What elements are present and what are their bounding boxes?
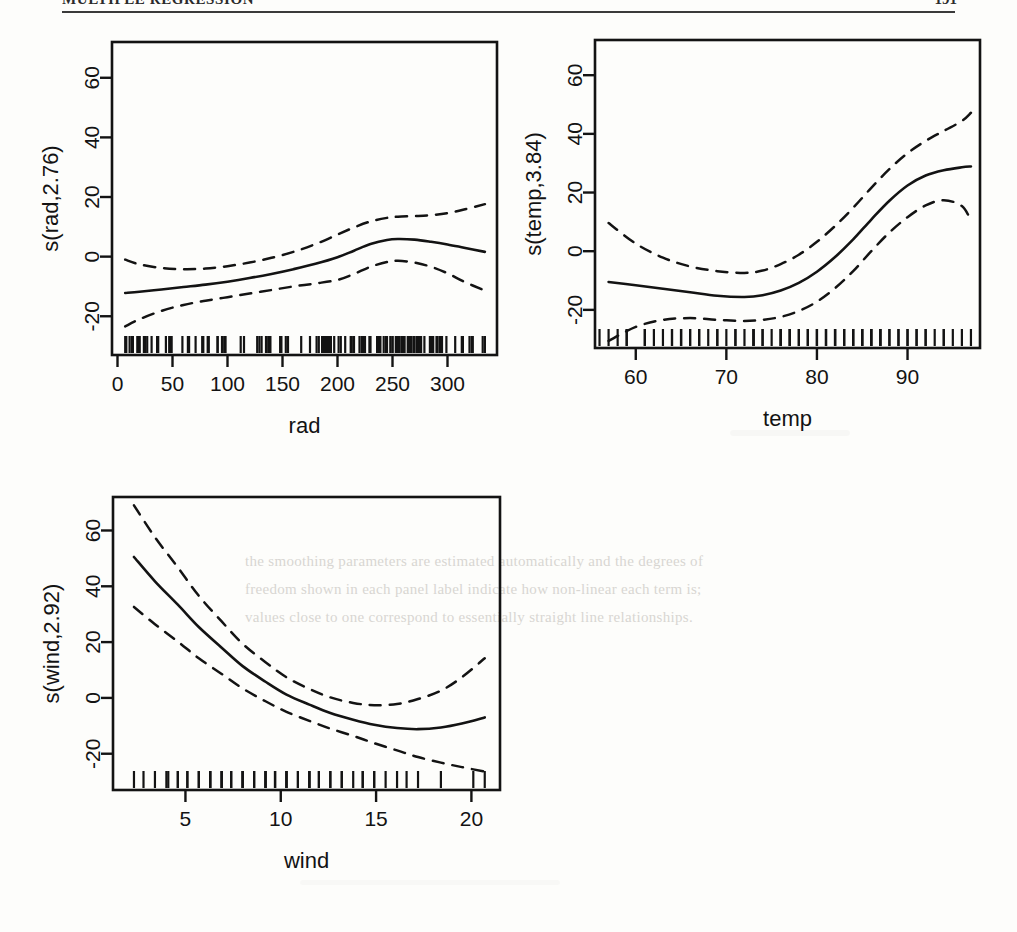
x-tick-label: 100 bbox=[210, 372, 245, 395]
x-axis-label: rad bbox=[289, 413, 321, 438]
rug-plot bbox=[600, 329, 971, 346]
x-tick-label: 250 bbox=[375, 372, 410, 395]
rug-plot bbox=[134, 771, 485, 788]
curve-lower-se bbox=[134, 607, 485, 772]
y-tick-label: 40 bbox=[81, 126, 104, 149]
curve-lower-se bbox=[609, 200, 971, 341]
x-tick-label: 90 bbox=[896, 365, 919, 388]
gam-plot-temp: -20020406060708090temps(temp,3.84) bbox=[510, 0, 1017, 445]
y-tick-label: 0 bbox=[81, 251, 104, 263]
x-tick-label: 20 bbox=[460, 807, 483, 830]
curve-upper-se bbox=[125, 204, 485, 269]
y-tick-label: 0 bbox=[82, 692, 105, 704]
rug-plot bbox=[125, 336, 485, 353]
y-axis-label: s(wind,2.92) bbox=[39, 584, 64, 704]
curve-upper-se bbox=[134, 505, 485, 705]
x-tick-label: 10 bbox=[269, 807, 292, 830]
x-tick-label: 15 bbox=[364, 807, 387, 830]
y-tick-label: 60 bbox=[82, 519, 105, 542]
gam-plot-rad: -200204060050100150200250300rads(rad,2.7… bbox=[0, 0, 520, 445]
y-tick-label: -20 bbox=[81, 301, 104, 331]
y-tick-label: 20 bbox=[564, 181, 587, 204]
gam-plot-wind: -2002040605101520winds(wind,2.92) bbox=[0, 455, 520, 932]
y-tick-label: 40 bbox=[82, 575, 105, 598]
y-axis-label: s(temp,3.84) bbox=[521, 132, 546, 256]
y-tick-label: 0 bbox=[564, 245, 587, 257]
x-tick-label: 150 bbox=[265, 372, 300, 395]
curve-smooth bbox=[134, 557, 485, 729]
x-tick-label: 60 bbox=[624, 365, 647, 388]
curve-lower-se bbox=[125, 261, 485, 327]
x-axis-label: wind bbox=[283, 848, 329, 873]
x-tick-label: 200 bbox=[320, 372, 355, 395]
x-tick-label: 5 bbox=[180, 807, 192, 830]
curve-smooth bbox=[609, 166, 971, 297]
x-tick-label: 80 bbox=[805, 365, 828, 388]
y-tick-label: 20 bbox=[81, 185, 104, 208]
y-axis-label: s(rad,2.76) bbox=[38, 145, 63, 251]
y-tick-label: 60 bbox=[81, 66, 104, 89]
y-tick-label: 40 bbox=[564, 122, 587, 145]
y-tick-label: -20 bbox=[82, 739, 105, 769]
y-tick-label: 20 bbox=[82, 630, 105, 653]
y-tick-label: -20 bbox=[564, 295, 587, 325]
curve-upper-se bbox=[609, 113, 971, 273]
x-tick-label: 50 bbox=[161, 372, 184, 395]
y-tick-label: 60 bbox=[564, 64, 587, 87]
x-axis-label: temp bbox=[763, 406, 812, 431]
x-tick-label: 70 bbox=[715, 365, 738, 388]
x-tick-label: 0 bbox=[112, 372, 124, 395]
x-tick-label: 300 bbox=[430, 372, 465, 395]
